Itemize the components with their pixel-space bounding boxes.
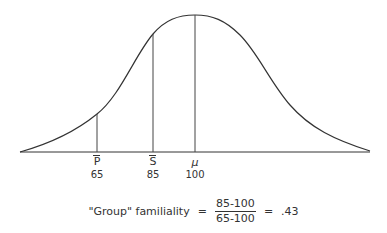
- fraction-numerator: 85-100: [215, 198, 256, 212]
- formula-equals: =: [198, 205, 207, 218]
- mu-value-label: 100: [180, 169, 210, 180]
- formula-fraction: 85-100 65-100: [215, 198, 256, 225]
- fraction-denominator: 65-100: [215, 212, 256, 225]
- familiality-formula: "Group" familiality = 85-100 65-100 = .4…: [0, 198, 387, 225]
- mu-symbol: μ: [180, 157, 210, 169]
- s-value-label: 85: [138, 169, 168, 180]
- formula-equals-2: =: [264, 205, 273, 218]
- p-bar-symbol: P: [82, 156, 112, 168]
- s-bar-symbol: S: [138, 156, 168, 168]
- formula-label: "Group" familiality: [88, 205, 189, 218]
- p-value-label: 65: [82, 169, 112, 180]
- formula-result: .43: [281, 205, 299, 218]
